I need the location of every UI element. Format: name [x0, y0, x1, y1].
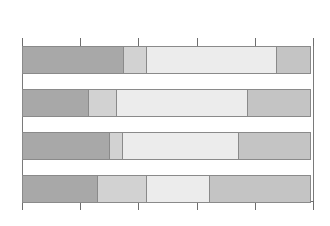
bar-segment-s2[interactable]	[123, 46, 146, 74]
bar-row[interactable]	[22, 175, 314, 203]
tick-top-5	[313, 38, 314, 46]
tick-top-0	[22, 38, 23, 46]
bar-segment-s1[interactable]	[22, 89, 89, 117]
bar-segment-s4[interactable]	[247, 89, 311, 117]
bar-segment-s2[interactable]	[97, 175, 147, 203]
tick-top-2	[138, 38, 139, 46]
bar-segment-s3[interactable]	[146, 46, 277, 74]
tick-top-3	[197, 38, 198, 46]
bar-row[interactable]	[22, 46, 314, 74]
bar-segment-s4[interactable]	[238, 132, 311, 160]
bar-segment-s1[interactable]	[22, 46, 124, 74]
bar-segment-s3[interactable]	[116, 89, 247, 117]
bar-row[interactable]	[22, 89, 314, 117]
bar-row[interactable]	[22, 132, 314, 160]
bar-segment-s1[interactable]	[22, 175, 98, 203]
bar-segment-s2[interactable]	[88, 89, 117, 117]
bar-segment-s1[interactable]	[22, 132, 110, 160]
bar-segment-s2[interactable]	[109, 132, 124, 160]
bar-segment-s3[interactable]	[146, 175, 210, 203]
bar-segment-s4[interactable]	[209, 175, 311, 203]
bar-segment-s4[interactable]	[276, 46, 311, 74]
tick-top-4	[255, 38, 256, 46]
plot-area	[22, 46, 314, 202]
bar-segment-s3[interactable]	[122, 132, 239, 160]
stacked-bar-chart	[0, 0, 330, 226]
tick-top-1	[80, 38, 81, 46]
